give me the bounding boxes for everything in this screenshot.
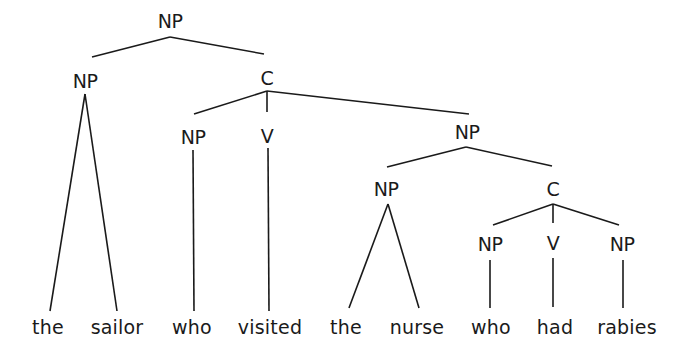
tree-node-v-visited: V: [261, 127, 274, 146]
tree-edge-c_rel2-to-np_who2: [493, 204, 553, 225]
tree-edge-c_rel1-to-np_obj: [267, 91, 469, 114]
tree-node-v-had: V: [547, 234, 560, 253]
leaf-word-w-who2: who: [471, 318, 511, 337]
tree-edge-np_obj-to-c_rel2: [466, 147, 552, 166]
tree-node-np-rabies: NP: [610, 235, 635, 254]
tree-node-np-nurse: NP: [374, 180, 399, 199]
tree-node-c-rel1: C: [261, 69, 274, 88]
leaf-word-w-the2: the: [330, 318, 362, 337]
tree-edge-np_subj-to-w_sailor: [85, 94, 117, 311]
tree-edge-c_rel1-to-np_who1: [194, 91, 267, 114]
leaf-word-w-rabies: rabies: [597, 318, 657, 337]
tree-edge-np_who1-to-w_who1: [193, 150, 194, 311]
leaf-word-w-had: had: [537, 318, 573, 337]
tree-edge-c_rel2-to-np_rabies: [553, 204, 619, 225]
tree-edge-v_visited-to-w_visited: [268, 148, 269, 311]
leaf-word-w-who1: who: [172, 318, 212, 337]
leaf-word-w-sailor: sailor: [91, 318, 144, 337]
tree-node-np-who2: NP: [478, 235, 503, 254]
tree-edge-np_root-to-np_subj: [92, 37, 170, 57]
tree-node-np-obj: NP: [455, 123, 480, 142]
tree-edge-np_root-to-c_rel1: [170, 37, 264, 54]
tree-node-np-who1: NP: [181, 128, 206, 147]
leaf-word-w-visited: visited: [238, 318, 302, 337]
syntax-tree-edges: [0, 0, 683, 361]
tree-edge-np_obj-to-np_nurse: [387, 147, 466, 167]
tree-node-np-root: NP: [158, 12, 183, 31]
tree-node-c-rel2: C: [547, 180, 560, 199]
tree-edge-np_nurse-to-w_nurse: [388, 204, 419, 308]
tree-node-np-subj: NP: [73, 72, 98, 91]
tree-edge-np_subj-to-w_the1: [50, 94, 85, 311]
leaf-word-w-the1: the: [32, 318, 64, 337]
leaf-word-w-nurse: nurse: [390, 318, 444, 337]
tree-edge-np_nurse-to-w_the2: [349, 204, 388, 308]
